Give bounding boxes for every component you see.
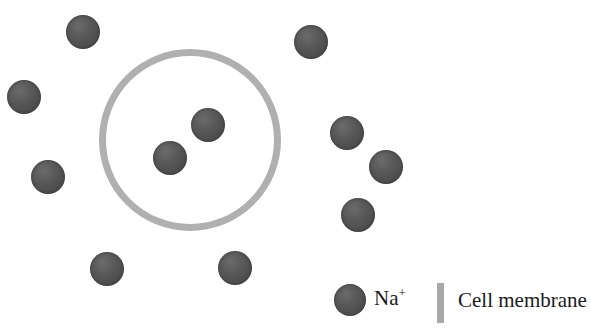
sodium-ion	[218, 251, 252, 285]
sodium-ion	[66, 15, 100, 49]
sodium-ion	[191, 108, 225, 142]
legend: Na+ Cell membrane	[330, 278, 591, 328]
cell-membrane-circle	[99, 49, 281, 231]
legend-sodium-ion-swatch	[334, 284, 366, 316]
legend-membrane-label: Cell membrane	[458, 286, 587, 314]
sodium-ion	[294, 25, 328, 59]
sodium-ion	[369, 150, 403, 184]
legend-sodium-charge: +	[399, 285, 406, 300]
legend-sodium-symbol: Na	[374, 286, 399, 310]
sodium-ion	[31, 160, 65, 194]
sodium-ion	[90, 252, 124, 286]
legend-sodium-ion-label: Na+	[374, 284, 406, 312]
sodium-ion	[330, 116, 364, 150]
diagram-canvas: Na+ Cell membrane	[0, 0, 591, 331]
sodium-ion	[7, 80, 41, 114]
sodium-ion	[341, 198, 375, 232]
legend-membrane-swatch	[437, 283, 444, 323]
sodium-ion	[153, 141, 187, 175]
